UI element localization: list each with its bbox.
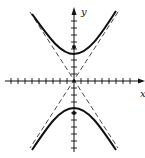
hyperbola-graph: x y	[0, 0, 145, 158]
x-axis-label: x	[140, 88, 145, 99]
upper-focus-point	[72, 45, 76, 49]
y-axis-label: y	[80, 6, 87, 17]
origin-point	[72, 79, 75, 82]
lower-focus-point	[72, 111, 76, 115]
